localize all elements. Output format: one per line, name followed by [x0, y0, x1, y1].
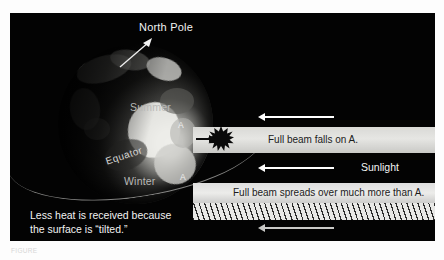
figure-caption: FIGURE: [11, 247, 37, 254]
winter-label: Winter: [124, 175, 156, 187]
point-a-upper-label: A: [178, 120, 184, 130]
caption-line-1: Less heat is received because: [30, 209, 171, 223]
sunlight-label: Sunlight: [361, 161, 399, 173]
north-pole-arrow-icon: [118, 37, 154, 69]
tilt-explanation-caption: Less heat is received because the surfac…: [30, 209, 171, 236]
illustration-panel: Equator Summer Winter A A North Pole Ful…: [10, 13, 435, 241]
sunlight-direction-arrow-bottom-icon: [258, 224, 334, 232]
summer-label: Summer: [130, 101, 171, 113]
beam-hit-arrow-icon: [196, 135, 216, 143]
spread-beam-band: Full beam spreads over much more than A.: [193, 183, 435, 203]
sunlight-direction-arrow-top-icon: [258, 113, 334, 121]
tilted-surface-hatch-band: [193, 203, 435, 220]
sunlight-direction-arrow-middle-icon: [258, 164, 334, 172]
point-a-lower-label: A: [180, 172, 186, 182]
caption-line-2: the surface is “tilted.”: [30, 223, 171, 237]
spread-beam-label: Full beam spreads over much more than A.: [233, 187, 424, 198]
full-beam-label: Full beam falls on A.: [268, 134, 358, 145]
north-pole-label: North Pole: [139, 21, 193, 33]
figure-stage: Equator Summer Winter A A North Pole Ful…: [0, 0, 444, 260]
